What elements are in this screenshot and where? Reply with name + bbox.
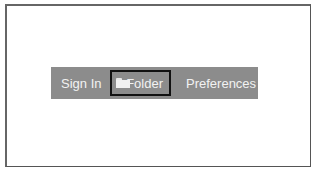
folder-icon bbox=[116, 78, 121, 88]
menu-item-label: Preferences bbox=[186, 76, 256, 91]
menu-item-preferences[interactable]: Preferences bbox=[186, 70, 256, 96]
menu-item-label: Sign In bbox=[61, 76, 101, 91]
menu-item-sign-in[interactable]: Sign In bbox=[61, 70, 109, 96]
menu-bar: Sign In Folder Preferences bbox=[51, 67, 258, 99]
menu-item-label: Folder bbox=[126, 76, 163, 91]
menu-item-folder[interactable]: Folder bbox=[110, 70, 171, 96]
